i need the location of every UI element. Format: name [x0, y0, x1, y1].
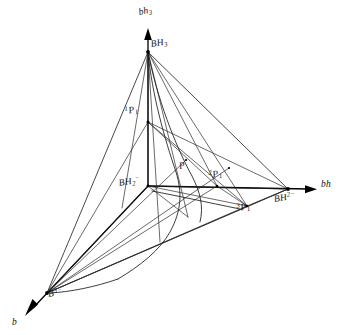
axis-group — [25, 28, 317, 316]
point-label-3p1: 3P1 — [236, 201, 251, 215]
point-label-1p1: 1P1 — [124, 104, 139, 118]
base-connector-lines — [148, 186, 288, 217]
line-b3minus-to-1p1 — [47, 122, 148, 293]
vertex-dot-origin — [147, 185, 150, 188]
vertex-dot-bh3 — [146, 50, 150, 54]
axis-label-bh: bh — [321, 180, 331, 190]
point-label-2p1: 2P1 — [208, 168, 223, 182]
edge-origin-to-b3minus — [47, 186, 148, 293]
bh3-fan-lines — [122, 52, 247, 242]
edge-bh3-to-b3minus — [47, 52, 148, 293]
axis-label-b: b — [12, 318, 17, 328]
point-dot-2p1 — [216, 185, 219, 188]
point-dot-mid-a — [185, 159, 187, 161]
curve-secondary — [148, 52, 202, 222]
tetrahedron-edges — [47, 52, 288, 293]
axis-bh-arrowhead — [305, 185, 317, 193]
line-b3minus-to-mid-a — [47, 160, 186, 293]
line-bh3-to-base-b — [148, 52, 160, 242]
line-b3minus-to-bh2minus-2 — [47, 189, 288, 293]
point-dot-mid-b — [228, 167, 230, 169]
curve-base-arc — [152, 191, 240, 209]
line-origin-to-base-a — [148, 186, 188, 217]
tetrahedron-diagram — [0, 0, 345, 335]
p1-plane-lines — [148, 122, 288, 206]
axis-b-arrowhead — [25, 299, 38, 316]
line-b3minus-to-mid-b — [47, 168, 229, 293]
figure-container: bh3 bh b BH3 BH2− BH2− B3− 1P1 2P1 3P1 P — [0, 0, 345, 335]
curve-through-p — [118, 52, 180, 279]
line-1p1-to-2p1 — [148, 122, 217, 186]
point-dot-1p1 — [147, 121, 150, 124]
